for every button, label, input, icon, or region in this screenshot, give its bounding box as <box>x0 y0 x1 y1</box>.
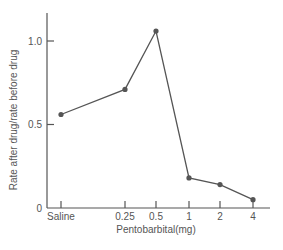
x-tick-label: Saline <box>47 211 75 222</box>
data-point <box>217 182 222 187</box>
chart-svg: 00.51.0 Saline0.250.5124 Pentobarbital(m… <box>0 0 283 250</box>
y-tick-label: 0.5 <box>28 119 42 130</box>
x-tick-label: 1 <box>186 211 192 222</box>
data-point <box>186 175 191 180</box>
y-axis-label: Rate after drug/rate before drug <box>8 50 19 191</box>
data-point <box>153 28 158 33</box>
x-axis: Saline0.250.5124 <box>47 201 270 222</box>
data-point <box>58 112 63 117</box>
data-point <box>122 87 127 92</box>
y-axis: 00.51.0 <box>28 13 54 214</box>
y-tick-label: 1.0 <box>28 36 42 47</box>
data-series <box>58 28 255 202</box>
series-line <box>61 31 253 200</box>
data-point <box>250 197 255 202</box>
y-tick-label: 0 <box>36 203 42 214</box>
x-axis-label: Pentobarbital(mg) <box>116 224 195 235</box>
x-ticks: Saline0.250.5124 <box>47 201 256 222</box>
x-tick-label: 0.5 <box>149 211 163 222</box>
x-tick-label: 4 <box>250 211 256 222</box>
y-ticks: 00.51.0 <box>28 36 54 214</box>
x-tick-label: 2 <box>217 211 223 222</box>
line-chart: 00.51.0 Saline0.250.5124 Pentobarbital(m… <box>0 0 283 250</box>
x-tick-label: 0.25 <box>115 211 135 222</box>
